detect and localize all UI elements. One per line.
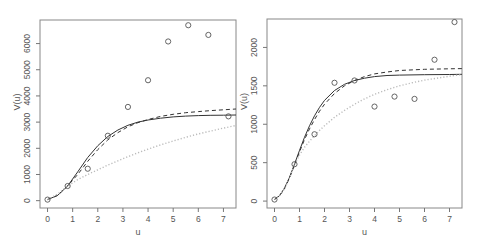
x-tick-label: 7 (447, 214, 452, 224)
data-point (206, 32, 211, 37)
y-tick-label: 2000 (22, 139, 32, 158)
data-point (432, 57, 437, 62)
x-tick-label: 3 (121, 214, 126, 224)
x-tick-label: 0 (45, 214, 50, 224)
x-tick-label: 6 (422, 214, 427, 224)
y-tick-label: 6000 (22, 34, 32, 53)
data-point (166, 39, 171, 44)
data-point (272, 197, 277, 202)
y-tick-label: 1000 (22, 165, 32, 184)
y-tick-label: 1000 (249, 115, 259, 134)
y-tick-label: 1500 (249, 76, 259, 95)
data-point (85, 166, 90, 171)
series-line-model-solid (275, 74, 463, 199)
x-tick-label: 1 (297, 214, 302, 224)
x-axis-label: u (362, 227, 367, 237)
x-tick-label: 7 (221, 214, 226, 224)
right-panel: 012345670500100015002000uV(u) (239, 19, 462, 237)
data-point (392, 94, 397, 99)
plot-frame (267, 19, 462, 208)
data-point (412, 96, 417, 101)
plot-frame (40, 20, 236, 208)
x-tick-label: 5 (397, 214, 402, 224)
y-tick-label: 4000 (22, 86, 32, 105)
data-point (145, 78, 150, 83)
chart-figure: 012345670100020003000400050006000uV(u) 0… (0, 0, 477, 252)
series-line-model-solid (48, 115, 237, 200)
series-line-model-dashed (275, 69, 463, 200)
series-line-model-dashed (48, 109, 237, 200)
x-tick-label: 6 (196, 214, 201, 224)
x-tick-label: 1 (70, 214, 75, 224)
y-tick-label: 5000 (22, 60, 32, 79)
y-tick-label: 0 (22, 198, 32, 203)
x-tick-label: 2 (322, 214, 327, 224)
data-point (125, 104, 130, 109)
series-line-model-dotted (48, 126, 237, 200)
y-tick-label: 0 (249, 198, 259, 203)
left-panel: 012345670100020003000400050006000uV(u) (12, 20, 236, 237)
data-point (372, 104, 377, 109)
y-tick-label: 3000 (22, 112, 32, 131)
data-point (312, 132, 317, 137)
x-tick-label: 4 (372, 214, 377, 224)
y-tick-label: 2000 (249, 38, 259, 57)
x-tick-label: 0 (272, 214, 277, 224)
x-tick-label: 4 (146, 214, 151, 224)
x-axis-label: u (135, 227, 140, 237)
data-point (226, 114, 231, 119)
x-tick-label: 3 (347, 214, 352, 224)
x-tick-label: 2 (95, 214, 100, 224)
data-point (452, 19, 457, 24)
y-tick-label: 500 (249, 155, 259, 169)
data-point (186, 23, 191, 28)
y-axis-label: V(u) (12, 93, 22, 110)
series-line-model-dotted (275, 75, 463, 200)
y-axis-label: V(u) (239, 93, 249, 110)
data-point (332, 80, 337, 85)
x-tick-label: 5 (171, 214, 176, 224)
